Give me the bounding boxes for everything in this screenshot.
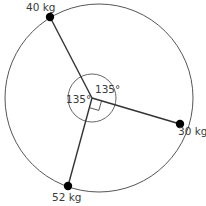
force-diagram: 40 kg 30 kg 52 kg 135° 135°	[0, 0, 206, 206]
weight-label-52kg: 52 kg	[52, 191, 81, 203]
weight-label-40kg: 40 kg	[26, 1, 55, 13]
weight-label-30kg: 30 kg	[178, 125, 206, 137]
angle-label-left: 135°	[66, 93, 91, 105]
weight-dot-40kg	[46, 13, 54, 21]
string-30kg	[92, 98, 180, 124]
angle-label-top: 135°	[95, 83, 120, 95]
weight-dot-52kg	[64, 182, 72, 190]
outer-circle	[5, 4, 193, 192]
